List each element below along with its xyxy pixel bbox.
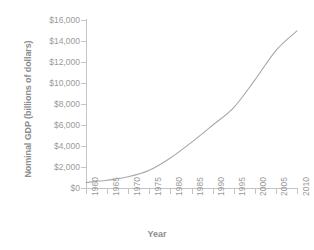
y-axis-tick-mark xyxy=(81,104,86,105)
x-axis-tick-mark xyxy=(255,189,256,194)
y-axis-tick-mark xyxy=(81,20,86,21)
y-axis-tick-mark xyxy=(81,41,86,42)
x-axis-tick-label: 2005 xyxy=(279,162,289,196)
x-axis-tick-label: 1985 xyxy=(195,162,205,196)
x-axis-tick-label: 1965 xyxy=(111,162,121,196)
x-axis-tick-label: 1990 xyxy=(216,162,226,196)
x-axis-title: Year xyxy=(0,229,314,239)
y-axis-tick-mark xyxy=(81,125,86,126)
x-axis-tick-mark xyxy=(86,189,87,194)
y-axis-tick-mark xyxy=(81,62,86,63)
x-axis-tick-mark xyxy=(234,189,235,194)
gdp-series-line xyxy=(86,31,297,183)
x-axis-tick-mark xyxy=(192,189,193,194)
x-axis-tick-label: 1975 xyxy=(153,162,163,196)
x-axis-tick-mark xyxy=(128,189,129,194)
x-axis-tick-mark xyxy=(213,189,214,194)
x-axis-tick-label: 1995 xyxy=(237,162,247,196)
x-axis-tick-label: 2010 xyxy=(301,162,311,196)
x-axis-tick-mark xyxy=(297,189,298,194)
x-axis-tick-mark xyxy=(107,189,108,194)
gdp-line-chart: Nominal GDP (billions of dollars) $0$2,0… xyxy=(0,0,314,250)
x-axis-tick-label: 1980 xyxy=(174,162,184,196)
x-axis-tick-mark xyxy=(170,189,171,194)
y-axis-tick-mark xyxy=(81,146,86,147)
x-axis-tick-label: 2000 xyxy=(258,162,268,196)
y-axis-tick-mark xyxy=(81,83,86,84)
x-axis-tick-label: 1960 xyxy=(90,162,100,196)
y-axis-tick-mark xyxy=(81,167,86,168)
x-axis-tick-mark xyxy=(149,189,150,194)
data-series-layer xyxy=(0,0,314,250)
x-axis-tick-mark xyxy=(276,189,277,194)
x-axis-tick-label: 1970 xyxy=(132,162,142,196)
